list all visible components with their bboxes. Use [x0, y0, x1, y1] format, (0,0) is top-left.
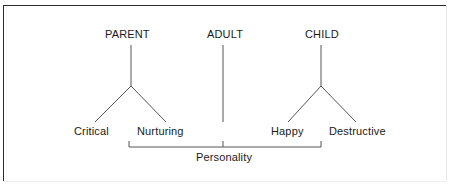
child-to-destructive-line — [321, 86, 356, 122]
transactional-analysis-diagram: PARENT ADULT CHILD Critical Nurturing Ha… — [0, 0, 449, 186]
node-label-child: CHILD — [305, 28, 339, 41]
bracket-label-personality: Personality — [196, 151, 252, 164]
node-label-critical: Critical — [74, 125, 109, 138]
node-label-adult: ADULT — [207, 28, 243, 41]
node-label-happy: Happy — [271, 125, 304, 138]
parent-to-nurturing-line — [131, 86, 166, 122]
node-label-parent: PARENT — [105, 28, 150, 41]
child-to-happy-line — [288, 86, 321, 122]
parent-to-critical-line — [95, 86, 131, 122]
node-label-destructive: Destructive — [329, 125, 386, 138]
node-label-nurturing: Nurturing — [137, 125, 184, 138]
